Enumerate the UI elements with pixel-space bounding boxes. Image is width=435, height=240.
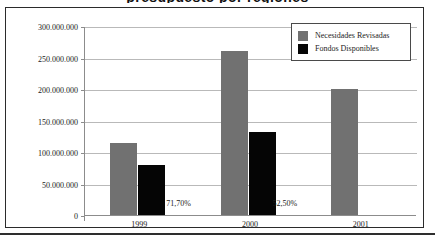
legend-swatch-gray <box>298 31 308 41</box>
x-axis-label-1999: 1999 <box>131 220 147 229</box>
y-axis-tick-label: 0 <box>74 212 78 221</box>
y-axis-tick <box>81 153 85 154</box>
y-axis-tick-label: 300.000.000 <box>38 23 78 32</box>
y-axis-tick <box>81 27 85 28</box>
legend-item-necesidades-revisadas[interactable]: Necesidades Revisadas <box>298 29 403 42</box>
y-axis-tick <box>81 185 85 186</box>
y-axis-tick-label: 200.000.000 <box>38 86 78 95</box>
bar-2000-necesidades-revisadas[interactable] <box>221 51 248 215</box>
x-axis-labels: 199920002001 <box>84 220 416 234</box>
legend-item-fondos-disponibles[interactable]: Fondos Disponibles <box>298 42 403 55</box>
y-axis-tick-label: 100.000.000 <box>38 149 78 158</box>
legend-label-fondos-disponibles: Fondos Disponibles <box>315 44 379 53</box>
y-axis-tick-label: 50.000.000 <box>42 180 78 189</box>
y-axis-tick <box>81 122 85 123</box>
x-axis-label-2000: 2000 <box>242 220 258 229</box>
chart-figure-frame: 050.000.000100.000.000150.000.000200.000… <box>5 7 424 228</box>
y-axis-tick <box>81 90 85 91</box>
page-title-cutoff: presupuesto por regiones <box>0 0 435 3</box>
bar-1999-necesidades-revisadas[interactable] <box>110 143 137 215</box>
y-axis-tick-label: 150.000.000 <box>38 117 78 126</box>
page-bottom-rule <box>0 233 435 235</box>
legend-label-necesidades-revisadas: Necesidades Revisadas <box>315 31 389 40</box>
gridline <box>85 90 417 91</box>
chart-legend: Necesidades Revisadas Fondos Disponibles <box>291 23 411 61</box>
percentage-annotation-2000: 52,50% <box>273 199 298 208</box>
percentage-annotation-1999: 71,70% <box>166 199 191 208</box>
gridline <box>85 122 417 123</box>
bar-1999-fondos-disponibles[interactable] <box>138 165 165 215</box>
y-axis-tick-label: 250.000.000 <box>38 54 78 63</box>
bar-2001-necesidades-revisadas[interactable] <box>331 89 358 215</box>
x-axis-label-2001: 2001 <box>353 220 369 229</box>
y-axis-tick <box>81 59 85 60</box>
legend-swatch-black <box>298 44 308 54</box>
